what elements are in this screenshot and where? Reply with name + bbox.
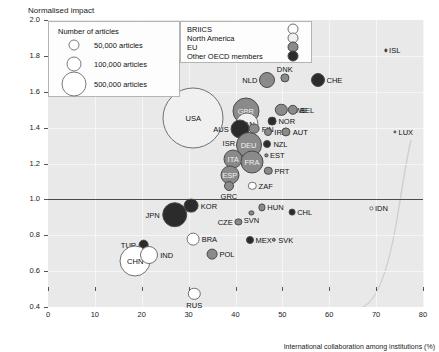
data-label-bel: BEL: [300, 105, 314, 114]
x-tick-label: 40: [231, 310, 239, 319]
data-label-est: EST: [270, 151, 285, 160]
data-label-bra: BRA: [202, 234, 217, 243]
data-label-esp: ESP: [222, 171, 237, 180]
data-label-idn: IDN: [375, 204, 388, 213]
y-tick-label: 1.6: [0, 87, 40, 96]
x-tick-label: 70: [372, 310, 380, 319]
y-tick-mark: [44, 235, 48, 236]
data-point-isl[interactable]: [384, 49, 387, 52]
y-tick-mark: [44, 128, 48, 129]
category-legend-label-other-oecd-members: Other OECD members: [187, 52, 263, 61]
size-legend-label-500000: 500,000 articles: [94, 80, 147, 89]
x-tick-label: 50: [278, 310, 286, 319]
data-point-irl[interactable]: [264, 128, 272, 136]
y-tick-label: 0.8: [0, 230, 40, 239]
x-axis-title: International collaboration among instit…: [284, 343, 435, 350]
data-label-fra: FRA: [244, 157, 259, 166]
x-tick-mark: [423, 287, 424, 291]
y-tick-label: 1.0: [0, 194, 40, 203]
x-tick-label: 10: [91, 310, 99, 319]
y-tick-label: 0.4: [0, 302, 40, 311]
data-label-kor: KOR: [201, 201, 217, 210]
data-label-svk: SVK: [278, 235, 293, 244]
data-label-prt: PRT: [275, 166, 290, 175]
data-label-jpn: JPN: [146, 210, 160, 219]
y-tick-label: 2.0: [0, 15, 40, 24]
data-label-svn: SVN: [244, 216, 259, 225]
data-point-che[interactable]: [311, 73, 325, 87]
data-point-idn[interactable]: [370, 207, 373, 210]
data-point-est[interactable]: [265, 154, 268, 157]
data-label-nzl: NZL: [273, 139, 287, 148]
data-point-rus[interactable]: [188, 287, 200, 299]
data-point-zaf[interactable]: [248, 182, 256, 190]
size-legend-marker-50000: [69, 40, 80, 51]
size-legend-label-100000: 100,000 articles: [94, 60, 147, 69]
data-label-isr: ISR: [223, 138, 236, 147]
data-point-svk[interactable]: [272, 238, 276, 242]
x-tick-label: 20: [138, 310, 146, 319]
data-label-isl: ISL: [389, 46, 400, 55]
data-point-dnk[interactable]: [280, 74, 289, 83]
data-point-pol[interactable]: [207, 249, 218, 260]
data-point-chl[interactable]: [288, 209, 295, 216]
size-legend-marker-100000: [67, 57, 82, 72]
data-label-hun: HUN: [267, 203, 283, 212]
data-point-swe[interactable]: [275, 103, 287, 115]
data-label-rus: RUS: [186, 300, 202, 309]
data-label-zaf: ZAF: [259, 181, 273, 190]
category-legend-label-briics: BRIICS: [187, 25, 212, 34]
data-point-prt[interactable]: [264, 166, 272, 174]
data-point-cze[interactable]: [235, 218, 242, 225]
y-tick-mark: [44, 164, 48, 165]
category-legend: BRIICSNorth AmericaEUOther OECD members: [180, 21, 312, 63]
grid-line-horizontal: [48, 271, 423, 272]
data-label-ita: ITA: [228, 155, 239, 164]
data-point-hun[interactable]: [258, 204, 265, 211]
data-label-nor: NOR: [278, 117, 295, 126]
data-label-chl: CHL: [297, 207, 312, 216]
data-label-lux: LUX: [398, 128, 413, 137]
data-point-mex[interactable]: [246, 236, 254, 244]
x-tick-mark: [95, 287, 96, 291]
y-tick-label: 1.2: [0, 159, 40, 168]
data-point-lux[interactable]: [393, 131, 396, 134]
data-label-nld: NLD: [242, 76, 257, 85]
x-tick-label: 30: [184, 310, 192, 319]
category-legend-label-north-america: North America: [187, 34, 235, 43]
y-tick-label: 1.4: [0, 123, 40, 132]
data-point-aut[interactable]: [282, 128, 291, 137]
y-tick-mark: [44, 199, 48, 200]
data-point-nzl[interactable]: [263, 140, 271, 148]
x-tick-label: 60: [325, 310, 333, 319]
x-tick-mark: [48, 287, 49, 291]
data-label-che: CHE: [327, 76, 343, 85]
y-tick-mark: [44, 271, 48, 272]
data-label-pol: POL: [219, 250, 234, 259]
data-point-ind[interactable]: [140, 246, 158, 264]
data-label-deu: DEU: [241, 140, 257, 149]
data-label-usa: USA: [186, 113, 201, 122]
data-point-jpn[interactable]: [162, 202, 188, 228]
size-legend-label-50000: 50,000 articles: [94, 41, 143, 50]
size-legend: Number of articles50,000 articles100,000…: [48, 21, 180, 97]
y-tick-label: 0.6: [0, 266, 40, 275]
data-point-nld[interactable]: [259, 72, 275, 88]
grid-line-vertical: [423, 20, 424, 307]
data-point-svn[interactable]: [249, 210, 254, 215]
x-tick-mark: [376, 287, 377, 291]
data-label-dnk: DNK: [277, 64, 293, 73]
y-tick-label: 1.8: [0, 51, 40, 60]
data-label-aut: AUT: [293, 128, 308, 137]
data-label-ind: IND: [160, 250, 173, 259]
category-legend-label-eu: EU: [187, 43, 197, 52]
size-legend-title: Number of articles: [58, 27, 119, 36]
category-legend-marker-other-oecd-members: [288, 51, 299, 62]
size-legend-marker-500000: [62, 72, 87, 97]
data-label-grc: GRC: [221, 191, 238, 200]
data-point-bra[interactable]: [187, 232, 200, 245]
data-label-aus: AUS: [213, 124, 228, 133]
grid-line-horizontal: [48, 235, 423, 236]
data-point-grc[interactable]: [224, 181, 234, 191]
data-label-mex: MEX: [256, 235, 272, 244]
